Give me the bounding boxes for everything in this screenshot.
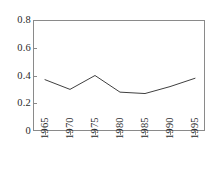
series-1-line <box>45 76 195 94</box>
line-chart: 0.8 0.6 0.4 0.2 0 1965 1970 1975 1980 19… <box>0 0 222 173</box>
data-line-layer <box>33 20 205 131</box>
